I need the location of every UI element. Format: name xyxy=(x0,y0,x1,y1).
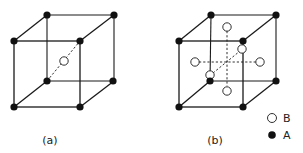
atom-b-bottom-face xyxy=(223,87,231,95)
caption-a: (a) xyxy=(42,134,57,147)
edge xyxy=(80,81,114,107)
edge xyxy=(243,15,276,41)
atom-a-corner xyxy=(206,77,213,84)
atom-a-corner xyxy=(76,37,83,44)
atom-a-corner xyxy=(10,37,17,44)
legend-a-label: A xyxy=(283,129,291,142)
legend-a-filled-circle-icon xyxy=(268,131,276,139)
atom-b-left-face xyxy=(191,58,199,66)
edge xyxy=(14,15,47,41)
edge xyxy=(243,81,276,107)
atom-b-back-face xyxy=(238,45,246,53)
atom-a-corner xyxy=(109,77,116,84)
edge xyxy=(179,81,210,107)
atom-a-corner xyxy=(175,37,182,44)
atom-b-body-center xyxy=(60,57,68,65)
atom-b-top-face xyxy=(223,23,231,31)
edge xyxy=(14,81,47,107)
atom-a-corner xyxy=(272,11,279,18)
atom-a-corner xyxy=(207,11,214,18)
crystal-structure-figure: (a) (b) xyxy=(0,0,303,153)
legend: B A xyxy=(268,112,292,142)
atom-a-corner xyxy=(43,11,50,18)
edge xyxy=(80,15,114,41)
legend-b-open-circle-icon xyxy=(268,114,277,123)
panel-a: (a) xyxy=(10,11,117,147)
atom-a-corner xyxy=(175,103,182,110)
atom-a-corner xyxy=(239,103,246,110)
atom-a-corner xyxy=(10,103,17,110)
edge xyxy=(179,15,211,41)
atom-a-corner xyxy=(272,77,279,84)
legend-b-label: B xyxy=(283,112,291,125)
atom-a-corner xyxy=(110,11,117,18)
atom-b-right-face xyxy=(256,58,264,66)
caption-b: (b) xyxy=(207,134,223,147)
atom-a-corner xyxy=(43,77,50,84)
panel-b: (b) xyxy=(175,11,279,147)
atom-a-corner xyxy=(239,37,246,44)
atom-a-corner xyxy=(76,103,83,110)
